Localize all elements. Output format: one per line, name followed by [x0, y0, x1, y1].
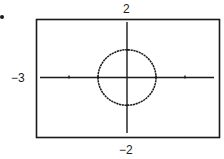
graph-window	[0, 0, 224, 159]
window-frame	[37, 20, 220, 138]
axes	[40, 22, 214, 133]
